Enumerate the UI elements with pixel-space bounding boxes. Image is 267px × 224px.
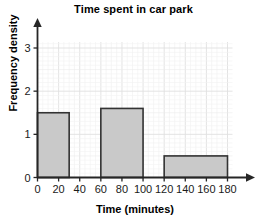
plot-area: 0204060801001201401601800123: [0, 0, 267, 224]
x-tick-label: 80: [116, 183, 128, 195]
x-tick-label: 120: [155, 183, 173, 195]
x-tick-label: 100: [134, 183, 152, 195]
x-axis-arrowhead: [246, 173, 255, 181]
x-tick-label: 60: [95, 183, 107, 195]
y-tick-label: 1: [24, 128, 30, 140]
histogram-bar: [164, 156, 227, 178]
y-tick-label: 3: [24, 42, 30, 54]
histogram-bar: [101, 108, 143, 177]
histogram-chart: Time spent in car park Frequency density…: [0, 0, 267, 224]
x-tick-label: 160: [197, 183, 215, 195]
histogram-bar: [38, 113, 70, 178]
x-tick-label: 180: [218, 183, 236, 195]
y-tick-label: 0: [24, 172, 30, 184]
x-tick-label: 0: [34, 183, 40, 195]
x-tick-label: 140: [176, 183, 194, 195]
x-tick-label: 20: [52, 183, 64, 195]
y-tick-label: 2: [24, 85, 30, 97]
y-axis-arrowhead: [33, 18, 41, 27]
x-tick-label: 40: [74, 183, 86, 195]
